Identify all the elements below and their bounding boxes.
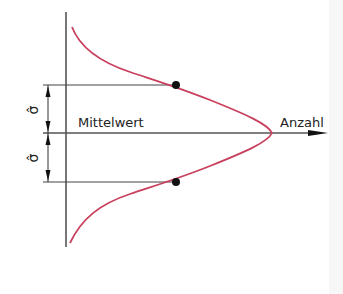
dim-arrow-up-top-icon bbox=[46, 86, 51, 97]
mean-label: Mittelwert bbox=[78, 115, 144, 130]
distribution-curve bbox=[70, 27, 272, 243]
sigma-lower-label: σ̂ bbox=[25, 153, 41, 162]
dim-arrow-up-bottom-icon bbox=[46, 134, 51, 145]
count-axis-label: Anzahl bbox=[280, 115, 324, 130]
upper-inflection-point bbox=[172, 81, 180, 89]
normal-distribution-diagram: σ̂ σ̂ Mittelwert Anzahl bbox=[0, 0, 343, 294]
sigma-upper-label: σ̂ bbox=[25, 105, 41, 114]
dim-arrow-down-top-icon bbox=[46, 121, 51, 132]
lower-inflection-point bbox=[172, 178, 180, 186]
axis-arrowhead-icon bbox=[308, 130, 328, 136]
dim-arrow-down-bottom-icon bbox=[46, 170, 51, 181]
